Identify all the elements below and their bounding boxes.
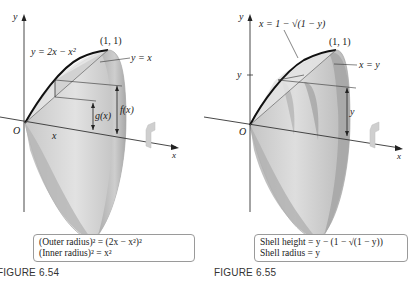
- point-label: (1, 1): [100, 36, 122, 46]
- outer-radius-label: f(x): [120, 105, 134, 115]
- shell-height-label: y: [350, 107, 354, 117]
- caption-line-radius: Shell radius = y: [260, 248, 402, 259]
- caption-box: Shell height = y − (1 − √(1 − y)) Shell …: [254, 234, 408, 262]
- rotation-arrow-icon: [146, 122, 155, 148]
- position-label: x: [52, 131, 56, 141]
- y-axis-label: y: [239, 12, 243, 22]
- curve-label: x = 1 − √(1 − y): [259, 19, 325, 29]
- figure-title: FIGURE 6.54: [0, 267, 59, 278]
- x-axis-label: x: [397, 152, 401, 161]
- x-axis-label: x: [172, 151, 176, 160]
- y-tick-label: y: [237, 70, 241, 80]
- figure-title: FIGURE 6.55: [214, 267, 276, 278]
- origin-label: O: [13, 126, 20, 136]
- point-label: (1, 1): [329, 37, 351, 47]
- line-label: y = x: [131, 53, 152, 63]
- caption-line-inner: (Inner radius)² = x²: [39, 248, 189, 259]
- y-axis-arrow-icon: [22, 14, 27, 21]
- line-label: x = y: [359, 60, 380, 70]
- caption-box: (Outer radius)² = (2x − x²)² (Inner radi…: [33, 234, 195, 262]
- caption-line-outer: (Outer radius)² = (2x − x²)²: [39, 237, 189, 248]
- origin-label: O: [239, 127, 246, 137]
- figure-6-55: y x O y x = 1 − √(1 − y) (1, 1) x = y y …: [204, 0, 408, 283]
- leader-line-curve: [284, 30, 298, 58]
- curve-label: y = 2x − x²: [31, 47, 76, 57]
- y-axis-arrow-icon: [248, 14, 253, 21]
- caption-line-height: Shell height = y − (1 − √(1 − y)): [260, 237, 402, 248]
- inner-radius-label: g(x): [95, 111, 111, 121]
- figure-6-54: y x O y = 2x − x² (1, 1) y = x f(x) g(x)…: [0, 0, 204, 283]
- y-axis-label: y: [13, 12, 17, 22]
